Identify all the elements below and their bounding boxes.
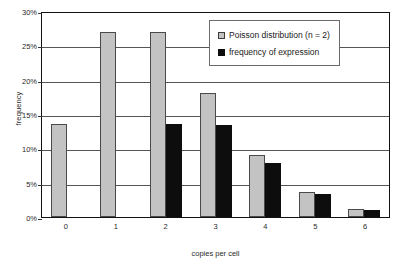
y-axis-tick-label: 10%: [22, 145, 37, 154]
y-axis-tick-labels: 0%5%10%15%20%25%30%: [0, 0, 40, 276]
y-axis-tick-label: 0%: [26, 214, 37, 223]
bar-expression: [265, 163, 281, 217]
bar-poisson: [200, 93, 216, 217]
x-axis-title: copies per cell: [41, 249, 390, 258]
bar-poisson: [348, 209, 364, 217]
legend-label-poisson: Poisson distribution (n = 2): [229, 30, 330, 40]
bar-poisson: [299, 192, 315, 217]
chart-legend: Poisson distribution (n = 2) frequency o…: [209, 20, 340, 66]
x-axis-tick-label: 0: [41, 222, 91, 231]
bar-poisson: [51, 124, 67, 217]
x-axis-tick-label: 6: [340, 222, 390, 231]
legend-swatch-expression-icon: [218, 49, 225, 56]
x-axis-tick-label: 5: [290, 222, 340, 231]
bar-group: [92, 13, 142, 217]
legend-swatch-poisson-icon: [218, 32, 225, 39]
bar-poisson: [249, 155, 265, 217]
bar-expression: [216, 125, 232, 217]
y-axis-tick-label: 30%: [22, 8, 37, 17]
x-axis-tick-label: 3: [191, 222, 241, 231]
x-axis-tick-label: 1: [91, 222, 141, 231]
bar-expression: [315, 194, 331, 217]
bar-expression: [364, 210, 380, 217]
bar-poisson: [100, 32, 116, 217]
y-axis-tick-label: 20%: [22, 76, 37, 85]
bar-expression: [166, 124, 182, 217]
bar-group: [141, 13, 191, 217]
legend-label-expression: frequency of expression: [229, 47, 319, 57]
y-axis-tick: [38, 219, 42, 220]
y-axis-tick-label: 5%: [26, 179, 37, 188]
x-axis-tick-label: 2: [141, 222, 191, 231]
y-axis-tick-label: 15%: [22, 111, 37, 120]
bar-chart: frequency 0%5%10%15%20%25%30% 0123456 co…: [0, 0, 401, 276]
legend-item-poisson: Poisson distribution (n = 2): [218, 30, 330, 40]
y-axis-tick-label: 25%: [22, 42, 37, 51]
bar-poisson: [150, 32, 166, 217]
bar-group: [339, 13, 389, 217]
x-axis-tick-label: 4: [240, 222, 290, 231]
bar-group: [42, 13, 92, 217]
x-axis-tick-labels: 0123456: [41, 222, 390, 231]
legend-item-expression: frequency of expression: [218, 47, 330, 57]
